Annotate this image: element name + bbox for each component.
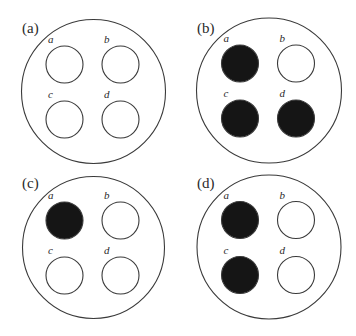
well-b-empty [278, 202, 315, 239]
panel-label: (a) [22, 20, 39, 37]
panel-label: (c) [22, 175, 39, 192]
well-c-empty [46, 257, 83, 294]
panel-a: (a)abcd [22, 20, 166, 164]
well-label: a [224, 189, 230, 201]
well-label: c [224, 87, 229, 99]
dish-outline [22, 20, 166, 164]
well-label: c [224, 244, 229, 256]
well-label: d [104, 88, 110, 100]
dish-outline [197, 175, 341, 319]
well-a-empty [46, 46, 83, 83]
well-c-filled [222, 100, 259, 137]
well-label: b [104, 189, 110, 201]
well-c-empty [46, 101, 83, 138]
well-a-filled [46, 202, 83, 239]
well-b-empty [278, 45, 315, 82]
well-label: a [48, 189, 54, 201]
well-label: d [280, 244, 286, 256]
well-d-empty [278, 257, 315, 294]
panel-label: (d) [197, 175, 215, 192]
well-b-empty [102, 202, 139, 239]
well-label: a [48, 33, 54, 45]
panel-c: (c)abcd [22, 175, 165, 319]
panel-d: (d)abcd [197, 175, 341, 319]
well-label: d [280, 87, 286, 99]
panel-b: (b)abcd [197, 18, 342, 163]
well-label: b [280, 189, 286, 201]
well-a-filled [222, 45, 259, 82]
well-c-filled [222, 257, 259, 294]
panel-label: (b) [197, 20, 215, 37]
well-b-empty [102, 46, 139, 83]
well-label: c [48, 244, 53, 256]
well-label: b [104, 33, 110, 45]
well-d-empty [102, 257, 139, 294]
petri-dish-figure: (a)abcd(b)abcd(c)abcd(d)abcd [0, 0, 356, 336]
well-label: b [280, 32, 286, 44]
dish-outline [197, 18, 342, 163]
dish-outline [23, 177, 165, 319]
well-label: c [48, 88, 53, 100]
well-a-filled [222, 202, 259, 239]
well-label: d [104, 244, 110, 256]
well-d-empty [102, 101, 139, 138]
well-label: a [224, 32, 230, 44]
well-d-filled [278, 100, 315, 137]
